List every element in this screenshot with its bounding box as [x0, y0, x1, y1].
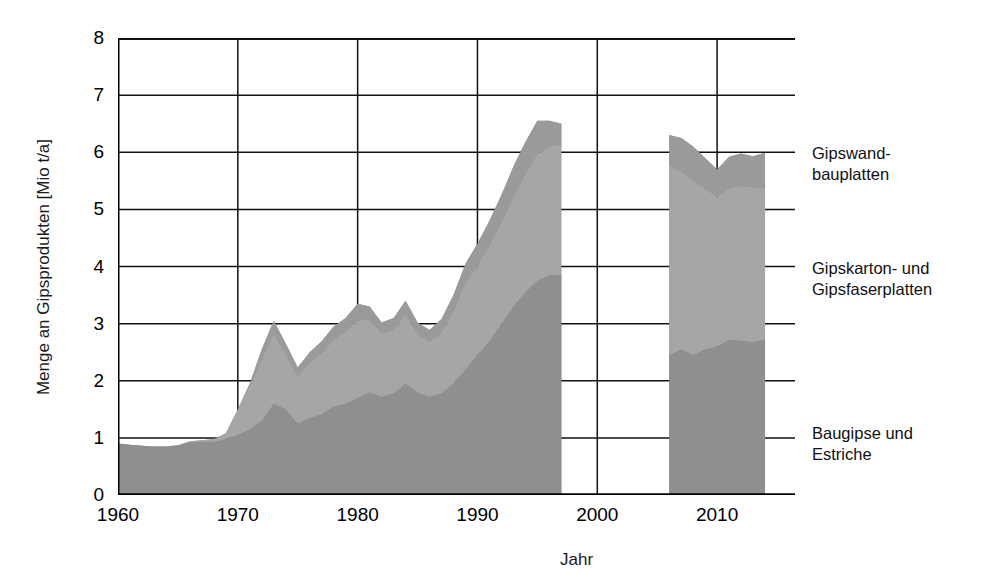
- stacked-area-svg: [118, 38, 795, 495]
- x-tick-label: 1960: [83, 505, 153, 524]
- y-tick-label: 5: [74, 199, 104, 218]
- legend-item: Gipswand-bauplatten: [812, 143, 891, 185]
- x-axis-title: Jahr: [560, 550, 593, 570]
- y-tick-label: 6: [74, 142, 104, 161]
- y-axis-title: Menge an Gipsprodukten [Mio t/a]: [34, 57, 54, 477]
- legend-item: Gipskarton- undGipsfaserplatten: [812, 258, 932, 300]
- x-tick-label: 2000: [562, 505, 632, 524]
- y-tick-label: 3: [74, 314, 104, 333]
- y-tick-label: 0: [74, 485, 104, 504]
- legend-label-line1: Gipswand-: [812, 143, 891, 164]
- legend-label-line1: Gipskarton- und: [812, 258, 932, 279]
- y-tick-label: 2: [74, 371, 104, 390]
- x-tick-label: 1990: [442, 505, 512, 524]
- y-tick-label: 1: [74, 428, 104, 447]
- x-tick-label: 1980: [323, 505, 393, 524]
- chart-figure: Menge an Gipsprodukten [Mio t/a] Jahr 01…: [0, 0, 996, 587]
- area-series-1-overlay: [669, 340, 765, 495]
- legend-label-line2: bauplatten: [812, 164, 891, 185]
- x-tick-label: 2010: [682, 505, 752, 524]
- plot-area: [118, 38, 795, 495]
- legend-label-line2: Gipsfaserplatten: [812, 279, 932, 300]
- y-tick-label: 8: [74, 28, 104, 47]
- legend-label-line2: Estriche: [812, 444, 913, 465]
- legend-label-line1: Baugipse und: [812, 423, 913, 444]
- y-tick-label: 7: [74, 85, 104, 104]
- x-tick-label: 1970: [203, 505, 273, 524]
- y-tick-label: 4: [74, 257, 104, 276]
- legend-item: Baugipse undEstriche: [812, 423, 913, 465]
